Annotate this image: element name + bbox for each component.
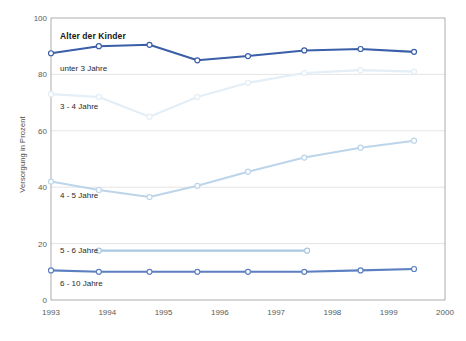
data-point-marker xyxy=(246,169,251,174)
data-point-marker xyxy=(195,58,200,63)
series-label-5: 6 - 10 Jahre xyxy=(60,279,103,288)
data-point-marker xyxy=(96,94,101,99)
data-point-marker xyxy=(302,155,307,160)
data-point-marker xyxy=(358,268,363,273)
data-point-marker xyxy=(302,48,307,53)
data-point-marker xyxy=(195,94,200,99)
plot-frame xyxy=(51,18,445,300)
series-label-3: 4 - 5 Jahre xyxy=(60,191,98,200)
data-point-marker xyxy=(358,68,363,73)
series-2 xyxy=(49,68,417,120)
plot-area xyxy=(0,0,466,341)
data-point-marker xyxy=(49,179,54,184)
chart-title: Alter der Kinder xyxy=(60,31,126,41)
data-point-marker xyxy=(358,145,363,150)
line-chart: Versorgung in Prozent 020406080100 19931… xyxy=(0,0,466,341)
series-1 xyxy=(49,42,417,63)
data-point-marker xyxy=(49,51,54,56)
data-point-marker xyxy=(412,266,417,271)
series-label-2: 3 - 4 Jahre xyxy=(60,102,98,111)
series-label-1: unter 3 Jahre xyxy=(60,64,107,73)
data-point-marker xyxy=(147,269,152,274)
data-point-marker xyxy=(147,195,152,200)
data-point-marker xyxy=(195,269,200,274)
series-3 xyxy=(49,138,417,199)
data-point-marker xyxy=(246,269,251,274)
data-point-marker xyxy=(147,42,152,47)
data-point-marker xyxy=(302,70,307,75)
series-4 xyxy=(96,248,309,253)
data-point-marker xyxy=(49,268,54,273)
data-point-marker xyxy=(412,69,417,74)
data-point-marker xyxy=(49,92,54,97)
series-line xyxy=(51,70,414,117)
series-5 xyxy=(49,266,417,274)
series-label-4: 5 - 6 Jahre xyxy=(60,246,98,255)
data-point-marker xyxy=(412,49,417,54)
data-point-marker xyxy=(305,248,310,253)
data-point-marker xyxy=(358,47,363,52)
data-point-marker xyxy=(195,183,200,188)
data-point-marker xyxy=(412,138,417,143)
data-point-marker xyxy=(302,269,307,274)
data-point-marker xyxy=(246,80,251,85)
data-point-marker xyxy=(147,114,152,119)
data-point-marker xyxy=(96,44,101,49)
data-point-marker xyxy=(96,269,101,274)
data-point-marker xyxy=(246,54,251,59)
